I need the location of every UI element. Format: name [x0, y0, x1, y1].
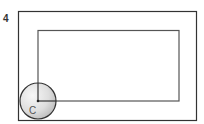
center-point	[37, 100, 40, 103]
inner-rectangle	[38, 31, 179, 102]
diagram: C	[0, 0, 204, 124]
circle-label: C	[29, 105, 36, 116]
